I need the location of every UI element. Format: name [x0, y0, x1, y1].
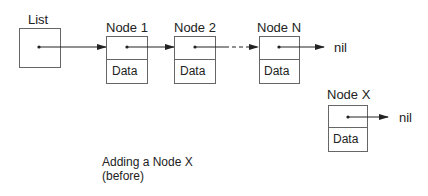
caption-line-2: (before)	[102, 169, 144, 183]
node-1-data: Data	[112, 64, 137, 78]
node-n-data: Data	[264, 64, 289, 78]
node-x-data: Data	[333, 132, 358, 146]
caption-line-1: Adding a Node X	[102, 155, 193, 169]
node-n-label: Node N	[257, 20, 301, 35]
node-2-label: Node 2	[174, 20, 216, 35]
node-1-label: Node 1	[106, 20, 148, 35]
nil-terminator-2: nil	[399, 110, 412, 125]
node-2-data: Data	[180, 64, 205, 78]
nil-terminator-1: nil	[334, 40, 347, 55]
list-label: List	[28, 12, 48, 27]
node-x-label: Node X	[327, 87, 370, 102]
